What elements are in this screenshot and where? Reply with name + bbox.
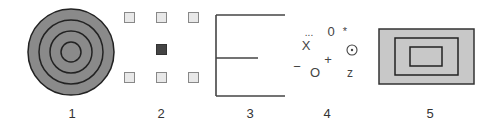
figure-label-3: 3	[240, 106, 260, 122]
figure-label-2: 2	[151, 106, 171, 122]
figure-5-nested-rectangles	[379, 29, 474, 84]
square-bottom-left	[125, 73, 135, 83]
square-bottom-center	[157, 73, 167, 83]
square-top-right	[189, 13, 199, 23]
figure-4-circled-dot	[347, 45, 357, 55]
symbol-z: z	[347, 67, 353, 79]
symbol-x: X	[302, 40, 311, 52]
figure-label-5: 5	[420, 106, 440, 122]
figure-2-square-grid	[125, 13, 199, 83]
figure-1-concentric-circles	[28, 9, 114, 95]
outer-circle	[28, 9, 114, 95]
symbol-circle-o: O	[310, 67, 320, 79]
symbol-minus: −	[293, 61, 301, 73]
square-bottom-right	[189, 73, 199, 83]
symbol-asterisk: *	[343, 25, 347, 37]
square-center-dark	[157, 45, 167, 55]
square-top-center	[157, 13, 167, 23]
circled-dot-center	[351, 49, 353, 51]
square-top-left	[125, 13, 135, 23]
figure-label-1: 1	[62, 106, 82, 122]
figure-label-4: 4	[317, 106, 337, 122]
figure-3-e-shape	[216, 15, 285, 96]
symbol-plus: +	[324, 54, 332, 66]
symbol-zero: 0	[327, 26, 334, 38]
